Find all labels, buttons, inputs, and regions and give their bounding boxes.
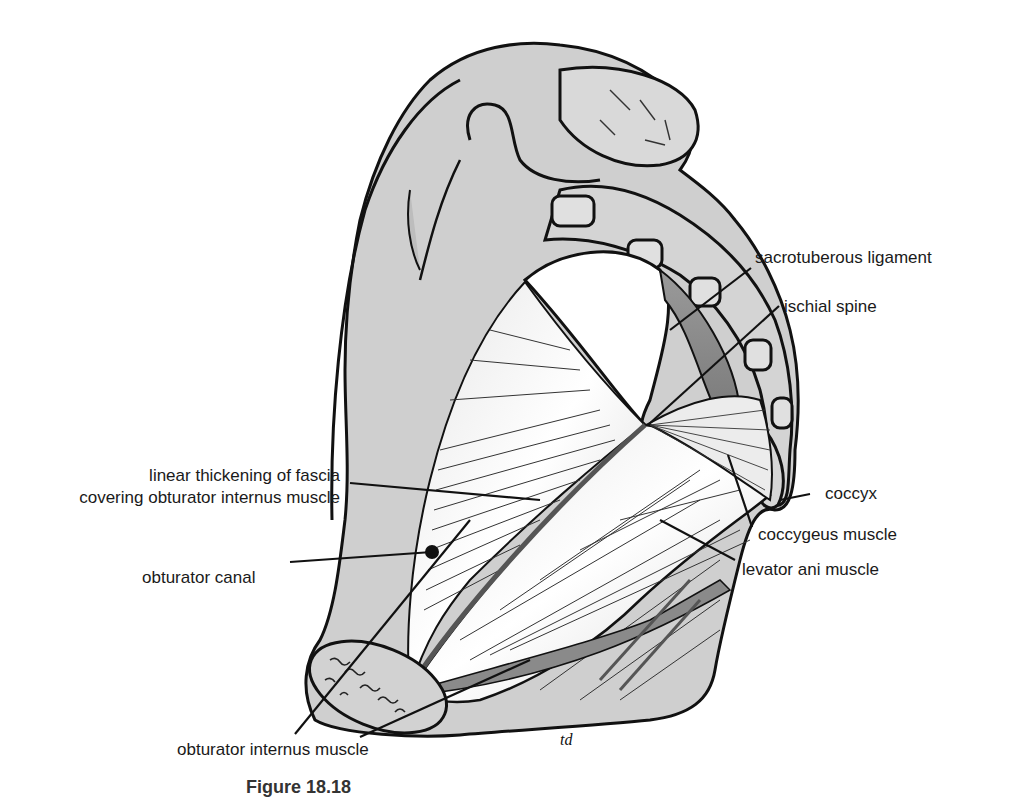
figure-caption: Figure 18.18	[246, 776, 361, 798]
label-levator-ani-muscle: levator ani muscle	[742, 560, 879, 580]
artist-initials: td	[560, 731, 573, 748]
label-obturator-internus-muscle: obturator internus muscle	[177, 740, 369, 760]
label-linear-thickening-line2: covering obturator internus muscle	[79, 488, 340, 508]
label-ischial-spine: ischial spine	[784, 297, 877, 317]
label-coccygeus-muscle: coccygeus muscle	[758, 525, 897, 545]
label-coccyx: coccyx	[825, 484, 877, 504]
caption-number: Figure 18.18	[246, 777, 351, 797]
label-linear-thickening-line1: linear thickening of fascia	[149, 466, 340, 486]
label-sacrotuberous-ligament: sacrotuberous ligament	[755, 248, 932, 268]
label-obturator-canal: obturator canal	[142, 568, 255, 588]
